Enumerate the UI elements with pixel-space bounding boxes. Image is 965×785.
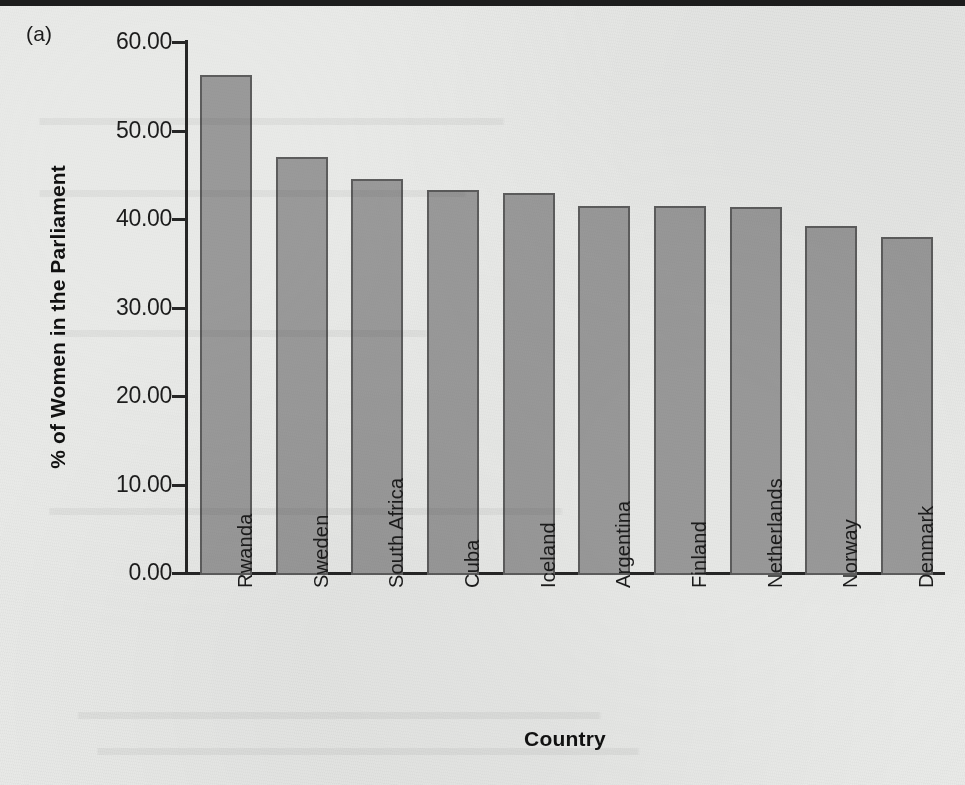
y-axis-tick-label: 50.00 <box>52 117 172 144</box>
x-axis-tick-label: Argentina <box>612 501 635 588</box>
bar-series: RwandaSwedenSouth AfricaCubaIcelandArgen… <box>188 0 945 785</box>
bar-slot: Finland <box>642 0 718 785</box>
x-axis-tick-label: Sweden <box>310 515 333 588</box>
y-axis-tick-label: 40.00 <box>52 205 172 232</box>
x-axis-tick-label: Finland <box>688 521 711 588</box>
plot-area: 0.0010.0020.0030.0040.0050.0060.00 % of … <box>0 0 965 785</box>
y-axis-tick-mark <box>172 484 185 487</box>
x-axis-title: Country <box>185 727 945 751</box>
x-axis-tick-label: South Africa <box>385 478 408 588</box>
y-axis-tick-mark <box>172 572 185 575</box>
bar-slot: Rwanda <box>188 0 264 785</box>
y-axis-tick-label: 60.00 <box>52 28 172 55</box>
y-axis-tick-mark <box>172 307 185 310</box>
bar-slot: Sweden <box>264 0 340 785</box>
y-axis-tick-label: 30.00 <box>52 294 172 321</box>
bar-slot: Netherlands <box>718 0 794 785</box>
y-axis-tick-label: 20.00 <box>52 382 172 409</box>
bar[interactable] <box>276 157 328 575</box>
y-axis-title: % of Women in the Parliament <box>46 107 70 527</box>
bar[interactable] <box>200 75 252 575</box>
x-axis-tick-label: Netherlands <box>764 478 787 588</box>
y-axis-tick-label: 0.00 <box>52 559 172 586</box>
y-axis-tick-label: 10.00 <box>52 471 172 498</box>
bar-slot: Iceland <box>491 0 567 785</box>
y-axis-tick-mark <box>172 218 185 221</box>
bar-slot: Argentina <box>567 0 643 785</box>
bar-slot: South Africa <box>339 0 415 785</box>
bar-slot: Cuba <box>415 0 491 785</box>
x-axis-tick-label: Norway <box>839 519 862 588</box>
x-axis-tick-label: Denmark <box>915 505 938 588</box>
y-axis-tick-mark <box>172 395 185 398</box>
y-axis-tick-mark <box>172 130 185 133</box>
bar-slot: Norway <box>794 0 870 785</box>
bar[interactable] <box>654 206 706 575</box>
x-axis-tick-label: Cuba <box>461 539 484 588</box>
chart-page: (a) 0.0010.0020.0030.0040.0050.0060.00 %… <box>0 0 965 785</box>
bar[interactable] <box>427 190 479 575</box>
y-axis-tick-mark <box>172 41 185 44</box>
bar[interactable] <box>503 193 555 575</box>
bar-slot: Denmark <box>869 0 945 785</box>
x-axis-tick-label: Rwanda <box>234 513 257 588</box>
x-axis-tick-label: Iceland <box>537 522 560 588</box>
